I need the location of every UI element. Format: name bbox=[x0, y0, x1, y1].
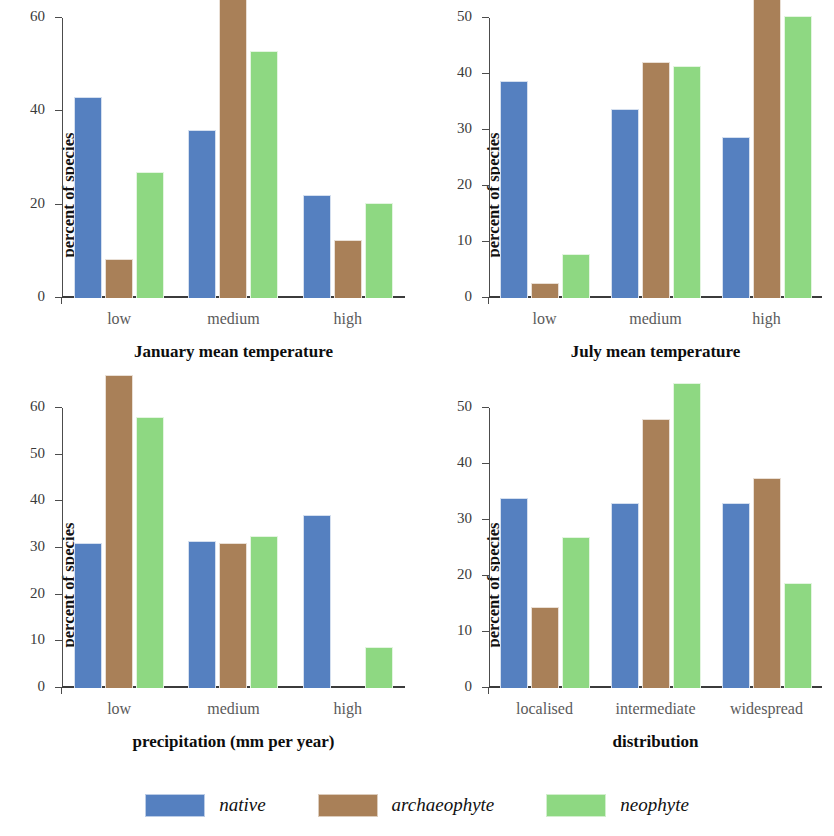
bar-group bbox=[711, 408, 822, 688]
x-axis-tick-label: medium bbox=[176, 700, 290, 718]
bar-archaeophyte[interactable] bbox=[753, 478, 781, 688]
x-axis-title: July mean temperature bbox=[489, 342, 822, 362]
x-axis-tick-label: medium bbox=[600, 310, 711, 328]
y-axis-tick-label: 50 bbox=[457, 398, 472, 415]
bar-groups bbox=[62, 18, 405, 298]
y-axis-tick-label: 0 bbox=[465, 288, 473, 305]
bar-archaeophyte[interactable] bbox=[334, 240, 362, 298]
y-axis-tick: 10 bbox=[482, 631, 489, 632]
bar-neophyte[interactable] bbox=[784, 583, 812, 688]
y-axis-tick-label: 20 bbox=[30, 585, 45, 602]
y-axis-tick: 40 bbox=[482, 463, 489, 464]
bar-archaeophyte[interactable] bbox=[531, 607, 559, 688]
bar-native[interactable] bbox=[611, 503, 639, 688]
y-axis-tick: 0 bbox=[482, 687, 489, 688]
bar-groups bbox=[489, 408, 822, 688]
bar-archaeophyte[interactable] bbox=[105, 375, 133, 688]
y-axis-tick: 30 bbox=[482, 519, 489, 520]
bar-neophyte[interactable] bbox=[784, 16, 812, 298]
y-axis-tick: 40 bbox=[55, 500, 62, 501]
x-axis-tick-label: localised bbox=[489, 700, 600, 718]
y-axis-tick: 50 bbox=[482, 17, 489, 18]
bar-group bbox=[62, 408, 176, 688]
x-axis-tick-label: high bbox=[291, 310, 405, 328]
bar-native[interactable] bbox=[500, 498, 528, 688]
x-axis-tick-label: high bbox=[711, 310, 822, 328]
x-axis-tick-labels: lowmediumhigh bbox=[62, 700, 405, 718]
y-axis-tick-label: 20 bbox=[30, 195, 45, 212]
x-axis-tick-label: low bbox=[489, 310, 600, 328]
y-axis-tick: 0 bbox=[55, 297, 62, 298]
bar-neophyte[interactable] bbox=[250, 51, 278, 298]
bar-native[interactable] bbox=[722, 503, 750, 688]
legend-item-archaeophyte[interactable]: archaeophyte bbox=[318, 794, 495, 817]
y-axis-tick-label: 60 bbox=[30, 398, 45, 415]
bar-group bbox=[489, 408, 600, 688]
plot-area: 0102030405060 bbox=[62, 408, 405, 688]
y-axis-tick: 60 bbox=[55, 407, 62, 408]
x-axis-tick-label: low bbox=[62, 310, 176, 328]
bar-native[interactable] bbox=[611, 109, 639, 298]
bar-group bbox=[176, 408, 290, 688]
bar-archaeophyte[interactable] bbox=[219, 543, 247, 688]
bar-group bbox=[291, 18, 405, 298]
x-axis-tick-label: low bbox=[62, 700, 176, 718]
bar-archaeophyte[interactable] bbox=[105, 259, 133, 298]
y-axis-tick: 50 bbox=[482, 407, 489, 408]
bar-neophyte[interactable] bbox=[136, 172, 164, 298]
y-axis-tick: 20 bbox=[482, 185, 489, 186]
legend-item-native[interactable]: native bbox=[145, 794, 265, 817]
bar-neophyte[interactable] bbox=[365, 203, 393, 298]
bar-neophyte[interactable] bbox=[673, 383, 701, 688]
y-axis-tick: 10 bbox=[482, 241, 489, 242]
panel-january-mean-temperature: percent of species 0204060 lowmediumhigh… bbox=[0, 0, 417, 390]
y-axis-tick-label: 50 bbox=[457, 8, 472, 25]
bar-group bbox=[176, 18, 290, 298]
bar-neophyte[interactable] bbox=[250, 536, 278, 688]
multi-panel-bar-chart-figure: percent of species 0204060 lowmediumhigh… bbox=[0, 0, 834, 836]
bar-native[interactable] bbox=[303, 195, 331, 298]
bar-neophyte[interactable] bbox=[562, 254, 590, 298]
y-axis-tick-label: 40 bbox=[457, 64, 472, 81]
bar-native[interactable] bbox=[188, 130, 216, 298]
bar-native[interactable] bbox=[74, 543, 102, 688]
bar-native[interactable] bbox=[722, 137, 750, 298]
bar-neophyte[interactable] bbox=[136, 417, 164, 688]
y-axis-tick-label: 0 bbox=[465, 678, 473, 695]
bar-archaeophyte[interactable] bbox=[642, 62, 670, 298]
x-axis-tick-labels: localisedintermediatewidespread bbox=[489, 700, 822, 718]
bar-neophyte[interactable] bbox=[673, 66, 701, 298]
plot-area: 0204060 bbox=[62, 18, 405, 298]
x-axis-tick-labels: lowmediumhigh bbox=[62, 310, 405, 328]
legend-swatch-icon bbox=[145, 794, 205, 817]
legend-label: archaeophyte bbox=[392, 794, 495, 816]
bar-neophyte[interactable] bbox=[562, 537, 590, 688]
y-axis-tick: 0 bbox=[55, 687, 62, 688]
panel-precipitation: percent of species 0102030405060 lowmedi… bbox=[0, 390, 417, 780]
x-axis-tick-label: widespread bbox=[711, 700, 822, 718]
bar-native[interactable] bbox=[74, 97, 102, 298]
bar-native[interactable] bbox=[188, 541, 216, 688]
chart-legend: nativearchaeophyteneophyte bbox=[0, 780, 834, 836]
bar-archaeophyte[interactable] bbox=[219, 0, 247, 298]
x-axis-title: precipitation (mm per year) bbox=[62, 732, 405, 752]
bar-archaeophyte[interactable] bbox=[642, 419, 670, 688]
y-axis-tick-label: 10 bbox=[30, 632, 45, 649]
bar-native[interactable] bbox=[500, 81, 528, 298]
bar-group bbox=[711, 18, 822, 298]
y-axis-tick-label: 10 bbox=[457, 622, 472, 639]
legend-label: neophyte bbox=[620, 794, 689, 816]
bar-native[interactable] bbox=[303, 515, 331, 688]
y-axis-tick: 10 bbox=[55, 640, 62, 641]
legend-item-neophyte[interactable]: neophyte bbox=[546, 794, 689, 817]
legend-swatch-icon bbox=[318, 794, 378, 817]
y-axis-tick-label: 30 bbox=[457, 510, 472, 527]
bar-archaeophyte[interactable] bbox=[753, 0, 781, 298]
bar-archaeophyte[interactable] bbox=[531, 283, 559, 298]
bar-group bbox=[489, 18, 600, 298]
y-axis-tick: 60 bbox=[55, 17, 62, 18]
bar-neophyte[interactable] bbox=[365, 647, 393, 688]
x-axis-title: distribution bbox=[489, 732, 822, 752]
legend-swatch-icon bbox=[546, 794, 606, 817]
panel-distribution: percent of species 01020304050 localised… bbox=[417, 390, 834, 780]
